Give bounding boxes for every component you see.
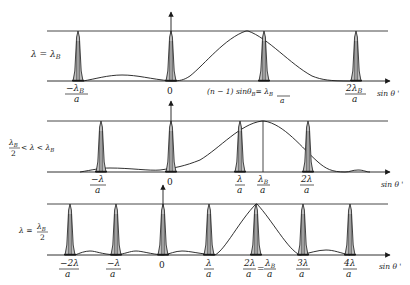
panel-3-tick-minus1: −λ a: [106, 258, 121, 279]
panel-2-peak-2: [302, 121, 314, 172]
svg-text:2: 2: [40, 233, 45, 242]
panel-2-tick-1: λ a: [235, 174, 245, 195]
panel-3-peak-2: [250, 204, 262, 255]
svg-text:λB: λB: [8, 138, 18, 148]
panel-1-tick-0: 0: [167, 86, 173, 96]
panel-3-axis-label: sin θ ': [379, 262, 401, 271]
panel-3-peak-minus2: [64, 204, 76, 255]
panel-3-tick-3: 3λ a: [296, 258, 310, 279]
panel-1-annotation: (n − 1) sinθB= λB a: [207, 87, 290, 105]
panel-3-peak-minus1: [110, 204, 122, 255]
svg-text:λB: λB: [36, 222, 46, 232]
panel-3-tick-4: 4λ a: [343, 258, 357, 279]
svg-text:a: a: [74, 94, 79, 104]
svg-text:a: a: [110, 269, 115, 279]
svg-text:2: 2: [11, 149, 16, 158]
svg-text:4λ: 4λ: [343, 258, 355, 268]
panel-2-peak-1: [234, 121, 246, 172]
svg-text:a: a: [95, 185, 100, 195]
panel-3-tick-minus2: −2λ a: [59, 258, 79, 279]
panel-1-tick-2: 2λB a: [345, 83, 366, 104]
panel-3-peak-0: [157, 204, 169, 255]
svg-text:a: a: [267, 269, 272, 279]
panel-3-tick-1: λ a: [204, 258, 214, 279]
panel-3-tick-2: 2λ a = λB a: [243, 258, 276, 279]
panel-1-peak-1: [258, 31, 270, 81]
svg-text:a: a: [237, 185, 242, 195]
panel-3-condition: λ = λB 2: [18, 222, 48, 242]
svg-text:2λ: 2λ: [243, 258, 255, 268]
svg-text:a: a: [206, 269, 211, 279]
panel-1-tick-minus1: −λB a: [65, 83, 88, 104]
panel-1-axis-label: sin θ ': [377, 89, 399, 98]
panel-2-lambdaB-label: λB a: [257, 174, 270, 195]
panel-2-peak-minus1: [95, 121, 107, 172]
panel-2-axis-label: sin θ ': [381, 180, 403, 189]
panel-2: [47, 101, 390, 172]
panel-3: [47, 185, 390, 255]
panel-1-peak-minus1: [72, 31, 84, 81]
svg-text:−λ: −λ: [91, 174, 104, 184]
grating-diagram: λ = λB −λB a 0 (n − 1) sinθB= λB a 2λB a…: [0, 0, 410, 285]
panel-1-peak-0: [165, 31, 177, 81]
svg-text:a: a: [346, 269, 351, 279]
panel-2-peak-0: [165, 121, 177, 172]
panel-1-condition: λ = λB: [30, 49, 61, 61]
panel-3-tick-0: 0: [159, 260, 165, 270]
svg-text:2λ: 2λ: [300, 174, 312, 184]
panel-3-peak-3: [297, 204, 309, 255]
svg-text:a: a: [352, 94, 357, 104]
panel-2-tick-0: 0: [167, 177, 173, 187]
panel-1: [47, 12, 390, 81]
svg-text:λ: λ: [236, 174, 243, 184]
svg-text:−λ: −λ: [107, 258, 120, 268]
svg-text:a: a: [246, 269, 251, 279]
svg-text:< λ < λB: < λ < λB: [21, 143, 54, 153]
panel-1-peak-2: [350, 31, 362, 81]
svg-text:3λ: 3λ: [297, 258, 308, 268]
panel-2-tick-2: 2λ a: [300, 174, 314, 195]
svg-text:a: a: [280, 96, 284, 105]
panel-2-tick-minus1: −λ a: [90, 174, 106, 195]
svg-text:λB: λB: [257, 174, 269, 185]
svg-text:a: a: [299, 269, 304, 279]
svg-text:=: =: [257, 264, 265, 274]
svg-text:a: a: [65, 269, 70, 279]
panel-1-envelope: [83, 31, 350, 81]
svg-text:−2λ: −2λ: [60, 258, 79, 268]
svg-text:a: a: [260, 185, 265, 195]
panel-2-condition: λB 2 < λ < λB: [8, 138, 54, 158]
svg-text:(n − 1) sinθB= λB: (n − 1) sinθB= λB: [207, 87, 273, 97]
panel-3-peak-1: [203, 204, 215, 255]
svg-text:a: a: [304, 185, 309, 195]
svg-text:λ: λ: [205, 258, 212, 268]
panel-3-peak-4: [344, 204, 356, 255]
svg-text:λB: λB: [264, 258, 276, 269]
panel-2-envelope: [80, 121, 370, 172]
svg-text:λ =: λ =: [18, 226, 32, 235]
